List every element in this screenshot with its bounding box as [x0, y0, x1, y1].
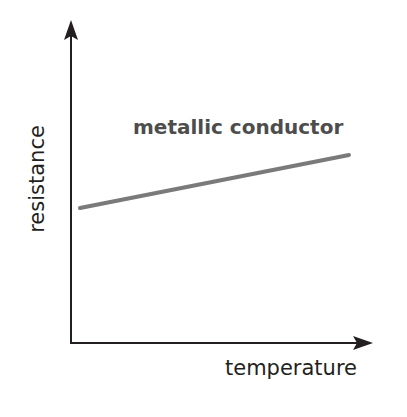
- chart-canvas: [0, 0, 407, 417]
- x-axis-label: temperature: [225, 356, 357, 380]
- series-annotation: metallic conductor: [133, 115, 343, 139]
- series-line-metallic-conductor: [80, 155, 349, 208]
- y-axis-label: resistance: [25, 125, 49, 233]
